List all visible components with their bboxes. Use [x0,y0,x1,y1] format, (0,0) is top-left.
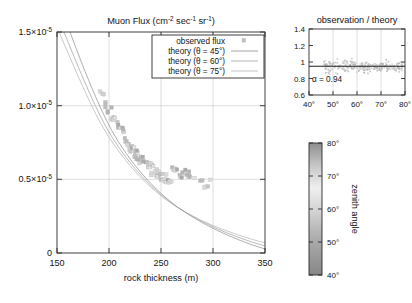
inset-data-point [363,63,365,65]
inset-data-point [367,73,369,75]
inset-data-point [329,63,331,65]
data-point [113,116,117,120]
x-tick-label: 200 [101,258,116,268]
data-point [206,185,210,189]
inset-data-point [350,61,352,63]
inset-data-point [351,58,353,60]
x-tick-label: 350 [257,258,272,268]
inset-data-point [393,68,395,70]
data-point [98,90,102,94]
colorbar-tick-label: 80° [327,139,339,148]
inset-data-point [342,61,344,63]
inset-data-point [335,72,337,74]
inset-data-point [341,68,343,70]
inset-y-tick-label: 0.8 [294,75,306,84]
inset-data-point [335,62,337,64]
y-tick-label: 0 [47,248,52,258]
inset-data-point [345,67,347,69]
data-point [102,93,106,97]
inset-data-point [386,70,388,72]
inset-data-point [373,67,375,69]
data-point [161,172,165,176]
x-tick-label: 150 [49,258,64,268]
inset-data-point [346,60,348,62]
data-point [187,170,191,174]
inset-data-point [381,68,383,70]
inset-x-tick-label: 70° [375,100,387,109]
inset-data-point [346,62,348,64]
inset-data-point [344,60,346,62]
x-tick-label: 250 [153,258,168,268]
inset-data-point [339,67,341,69]
inset-data-point [326,68,328,70]
legend-label-theory-45: theory (θ = 45°) [168,47,225,56]
inset-data-point [332,63,334,65]
data-point [151,164,155,168]
inset-data-point [323,61,325,63]
figure-root: Muon Flux (cm-2 sec-1 sr-1) [0,0,412,303]
inset-data-point [352,68,354,70]
colorbar-axis-title: zenith angle [350,184,360,234]
data-point [141,155,145,159]
data-point [188,175,192,179]
legend-label-theory-60: theory (θ = 60°) [168,57,225,66]
inset-data-point [333,62,335,64]
colorbar-tick-label: 40° [327,271,339,280]
inset-x-tick-label: 60° [351,100,363,109]
legend-marker-observed-square [242,39,246,43]
data-point [106,111,110,115]
main-x-axis-title: rock thickness (m) [124,273,199,283]
inset-data-point [354,67,356,69]
inset-data-point [398,62,400,64]
data-point [164,173,168,177]
data-point [126,143,130,147]
inset-data-point [328,72,330,74]
inset-data-point [397,64,399,66]
data-point [116,123,120,127]
inset-data-point [370,71,372,73]
inset-data-point [385,59,387,61]
inset-data-point [346,69,348,71]
data-point [104,102,108,106]
inset-data-point [357,68,359,70]
inset-data-point [344,63,346,65]
inset-data-point [334,64,336,66]
inset-data-point [385,62,387,64]
inset-data-point [359,63,361,65]
inset-data-point [391,63,393,65]
inset-data-point [401,64,403,66]
inset-data-point [349,64,351,66]
inset-data-point [328,69,330,71]
legend-label-observed: observed flux [176,37,225,46]
inset-data-point [356,62,358,64]
inset-data-point [368,63,370,65]
data-point [168,179,172,183]
inset-data-point [325,72,327,74]
inset-data-point [363,72,365,74]
data-point [135,149,139,153]
inset-y-tick-label: 0.6 [294,91,306,100]
inset-alpha-annotation: α = 0.94 [312,75,342,84]
data-point [175,168,179,172]
inset-data-point [376,67,378,69]
legend-label-theory-75: theory (θ = 75°) [168,67,225,76]
inset-data-point [398,67,400,69]
x-tick-label: 300 [205,258,220,268]
inset-data-point [347,67,349,69]
inset-data-point [356,71,358,73]
inset-y-tick-label: 1 [301,58,306,67]
inset-data-point [390,69,392,71]
data-point [150,173,154,177]
inset-data-point [395,68,397,70]
data-point [155,175,159,179]
data-point [208,178,212,182]
data-point [121,128,125,132]
inset-data-point [398,71,400,73]
inset-data-point [351,63,353,65]
data-point [110,106,114,110]
data-point [183,168,187,172]
inset-x-tick-label: 50° [327,100,339,109]
inset-data-point [337,68,339,70]
colorbar-tick-label: 60° [327,205,339,214]
colorbar-tick-label: 70° [327,172,339,181]
